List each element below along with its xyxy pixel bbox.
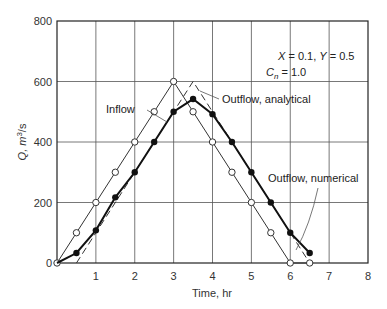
- filled-marker: [93, 227, 99, 233]
- open-marker: [209, 139, 215, 145]
- open-marker: [190, 109, 196, 115]
- filled-marker: [248, 169, 254, 175]
- filled-marker: [112, 194, 118, 200]
- x-tick-label: 3: [171, 270, 177, 282]
- open-marker: [73, 230, 79, 236]
- filled-marker: [151, 139, 157, 145]
- y-tick-label: 200: [34, 197, 52, 209]
- y-tick-label: 0: [46, 257, 52, 269]
- x-tick-label: 8: [365, 270, 371, 282]
- open-marker: [287, 260, 293, 266]
- y-axis-title-prefix: Q, m: [16, 137, 28, 161]
- y-axis-title: Q, m3/s: [15, 123, 28, 160]
- open-marker: [229, 169, 235, 175]
- param-y-value: = 0.5: [327, 50, 355, 62]
- filled-marker: [287, 230, 293, 236]
- open-marker: [248, 199, 254, 205]
- param-c-label: C: [266, 66, 274, 78]
- param-c-value: = 1.0: [278, 66, 306, 78]
- open-marker: [93, 199, 99, 205]
- filled-marker: [170, 109, 176, 115]
- x-tick-label: 6: [287, 270, 293, 282]
- x-tick-label: 1: [93, 270, 99, 282]
- y-tick-label: 400: [34, 136, 52, 148]
- y-tick-label: 600: [34, 76, 52, 88]
- outflow-analytical-annotation: Outflow, analytical: [222, 93, 311, 105]
- open-marker: [132, 139, 138, 145]
- parameters-line-1: X = 0.1, Y = 0.5: [277, 50, 354, 62]
- inflow-annotation: Inflow: [106, 103, 135, 115]
- outflow-numerical-annotation: Outflow, numerical: [268, 172, 358, 184]
- analytical-leader: [200, 91, 219, 99]
- filled-marker: [132, 169, 138, 175]
- x-tick-label: 2: [132, 270, 138, 282]
- open-marker: [306, 260, 312, 266]
- filled-marker: [229, 139, 235, 145]
- parameters-line-2: Cn = 1.0: [266, 66, 306, 81]
- param-x-value: = 0.1,: [285, 50, 319, 62]
- numerical-leader: [296, 188, 318, 250]
- y-tick-label: 800: [34, 15, 52, 27]
- x-axis-title: Time, hr: [192, 287, 232, 299]
- open-marker: [268, 230, 274, 236]
- x-tick-label: 4: [209, 270, 215, 282]
- filled-marker: [73, 250, 79, 256]
- open-marker: [170, 78, 176, 84]
- y-axis-title-suffix: /s: [16, 123, 28, 132]
- open-marker: [112, 169, 118, 175]
- filled-marker: [268, 199, 274, 205]
- filled-marker: [209, 111, 215, 117]
- hydrograph-chart: 123456780200400600800 Inflow Outflow, an…: [0, 0, 387, 309]
- x-tick-label: 7: [326, 270, 332, 282]
- filled-marker: [306, 250, 312, 256]
- x-tick-label: 5: [248, 270, 254, 282]
- filled-marker: [190, 96, 196, 102]
